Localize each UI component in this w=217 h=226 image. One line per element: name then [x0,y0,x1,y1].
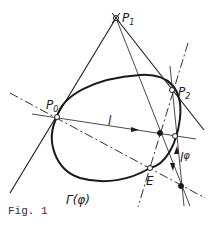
figure-caption: Fig. 1 [8,205,48,217]
arrow-icon [131,127,139,132]
point-x1 [158,131,163,136]
tangent-line-p1-p2 [116,18,204,130]
label-curve: Γ(φ) [66,193,90,207]
diagram-canvas: P0 P1 P2 l lφ E Γ(φ) Fig. 1 [0,0,217,226]
label-p1: P1 [122,11,134,27]
label-point-e: E [146,174,154,188]
point-x3 [179,184,184,189]
point-e [148,166,153,171]
point-x2 [173,134,178,139]
point-p0 [55,115,60,120]
point-p2 [170,88,175,93]
curve-gamma [52,75,180,181]
label-p2: P2 [178,85,190,101]
label-line-l-phi: lφ [180,150,190,165]
label-p0: P0 [46,98,58,114]
